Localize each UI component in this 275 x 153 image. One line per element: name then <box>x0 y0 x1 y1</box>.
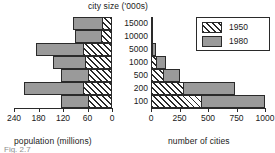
axis-tick-label: 0 <box>136 113 166 123</box>
axis-tick-label: 0 <box>97 113 127 123</box>
axis-tick <box>112 108 113 112</box>
bar-row <box>14 95 112 108</box>
category-labels: 150001000050001000500200100 <box>113 17 151 108</box>
bar-1950 <box>151 56 157 69</box>
bar-1950 <box>83 82 112 95</box>
legend-label-1950: 1950 <box>229 22 248 33</box>
bar-1950 <box>151 17 153 30</box>
bar-1950 <box>151 95 202 108</box>
bar-1950 <box>85 56 112 69</box>
axis-tick-label: 1000 <box>250 113 275 123</box>
axis-tick <box>265 108 266 112</box>
bar-row <box>14 30 112 43</box>
figure: city size ('000s) 1500010000500010005002… <box>0 0 275 153</box>
axis-tick <box>63 108 64 112</box>
bar-1950 <box>151 30 153 43</box>
bar-row <box>151 95 265 108</box>
axis-tick <box>88 108 89 112</box>
bar-row <box>14 43 112 56</box>
bar-row <box>14 17 112 30</box>
category-label: 100 <box>113 95 151 108</box>
bar-1950 <box>88 95 112 108</box>
axis-tick-label: 250 <box>165 113 195 123</box>
bar-row <box>14 69 112 82</box>
population-panel <box>14 17 112 108</box>
axis-tick-label: 750 <box>222 113 252 123</box>
legend-swatch-1980 <box>202 36 222 47</box>
category-label: 10000 <box>113 30 151 43</box>
category-label: 200 <box>113 82 151 95</box>
axis-tick-label: 500 <box>193 113 223 123</box>
category-label: 5000 <box>113 43 151 56</box>
axis-tick <box>151 108 152 112</box>
bar-1950 <box>102 17 112 30</box>
bar-row <box>151 69 265 82</box>
bar-1950 <box>151 43 153 56</box>
legend-label-1980: 1980 <box>229 36 248 47</box>
category-label: 500 <box>113 69 151 82</box>
bar-1950 <box>101 30 112 43</box>
bar-1950 <box>83 43 112 56</box>
cities-axis-title: number of cities <box>168 136 230 146</box>
bar-row <box>151 82 265 95</box>
legend-swatch-1950 <box>202 22 222 33</box>
bar-row <box>14 56 112 69</box>
bar-1950 <box>151 69 164 82</box>
axis-tick <box>237 108 238 112</box>
axis-tick <box>39 108 40 112</box>
legend: 1950 1980 <box>196 17 270 51</box>
category-label: 15000 <box>113 17 151 30</box>
category-axis-title: city size ('000s) <box>88 1 148 11</box>
figure-caption: Fig. 2.7 <box>4 145 31 153</box>
axis-tick <box>180 108 181 112</box>
category-label: 1000 <box>113 56 151 69</box>
axis-tick <box>208 108 209 112</box>
bar-row <box>151 56 265 69</box>
bar-row <box>14 82 112 95</box>
bar-1950 <box>88 69 113 82</box>
axis-tick <box>14 108 15 112</box>
bar-1950 <box>151 82 184 95</box>
